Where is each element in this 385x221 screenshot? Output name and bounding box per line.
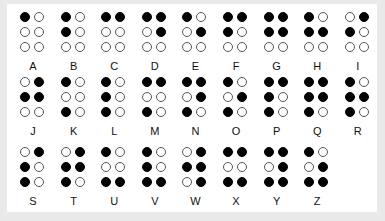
raised-dot-icon <box>156 27 166 37</box>
braille-cell-z: Z <box>304 147 334 207</box>
flat-dot-icon <box>142 42 152 52</box>
flat-dot-icon <box>196 107 206 117</box>
raised-dot-icon <box>156 177 166 187</box>
letter-label: L <box>101 125 127 137</box>
letter-label: C <box>101 60 127 72</box>
braille-cell-o: O <box>223 77 253 137</box>
flat-dot-icon <box>34 27 44 37</box>
flat-dot-icon <box>318 107 328 117</box>
flat-dot-icon <box>20 42 30 52</box>
letter-label: O <box>223 125 249 137</box>
raised-dot-icon <box>20 177 30 187</box>
letter-label: G <box>264 60 290 72</box>
flat-dot-icon <box>115 107 125 117</box>
flat-dot-icon <box>75 177 85 187</box>
braille-cell-w: W <box>182 147 212 207</box>
raised-dot-icon <box>101 77 111 87</box>
raised-dot-icon <box>115 177 125 187</box>
flat-dot-icon <box>182 42 192 52</box>
flat-dot-icon <box>278 42 288 52</box>
raised-dot-icon <box>101 12 111 22</box>
flat-dot-icon <box>115 27 125 37</box>
flat-dot-icon <box>156 147 166 157</box>
raised-dot-icon <box>264 107 274 117</box>
flat-dot-icon <box>115 92 125 102</box>
flat-dot-icon <box>115 162 125 172</box>
raised-dot-icon <box>75 147 85 157</box>
raised-dot-icon <box>278 162 288 172</box>
braille-cell-s: S <box>20 147 50 207</box>
raised-dot-icon <box>182 12 192 22</box>
flat-dot-icon <box>237 42 247 52</box>
raised-dot-icon <box>61 77 71 87</box>
letter-label: Z <box>304 195 330 207</box>
flat-dot-icon <box>20 107 30 117</box>
flat-dot-icon <box>223 162 233 172</box>
flat-dot-icon <box>142 27 152 37</box>
letter-label: K <box>61 125 87 137</box>
raised-dot-icon <box>237 12 247 22</box>
raised-dot-icon <box>156 12 166 22</box>
braille-cell-y: Y <box>264 147 294 207</box>
braille-cell-b: B <box>61 12 91 72</box>
raised-dot-icon <box>61 162 71 172</box>
flat-dot-icon <box>115 147 125 157</box>
flat-dot-icon <box>115 77 125 87</box>
flat-dot-icon <box>101 42 111 52</box>
letter-label: J <box>20 125 46 137</box>
braille-cell-q: Q <box>304 77 334 137</box>
raised-dot-icon <box>196 177 206 187</box>
flat-dot-icon <box>75 92 85 102</box>
raised-dot-icon <box>223 177 233 187</box>
raised-dot-icon <box>264 12 274 22</box>
braille-cell-l: L <box>101 77 131 137</box>
raised-dot-icon <box>196 77 206 87</box>
raised-dot-icon <box>115 12 125 22</box>
braille-cell-e: E <box>182 12 212 72</box>
flat-dot-icon <box>34 107 44 117</box>
raised-dot-icon <box>156 77 166 87</box>
raised-dot-icon <box>182 162 192 172</box>
flat-dot-icon <box>182 92 192 102</box>
flat-dot-icon <box>278 107 288 117</box>
letter-label: R <box>345 125 371 137</box>
flat-dot-icon <box>142 92 152 102</box>
flat-dot-icon <box>237 162 247 172</box>
flat-dot-icon <box>156 92 166 102</box>
letter-label: D <box>142 60 168 72</box>
flat-dot-icon <box>223 42 233 52</box>
raised-dot-icon <box>20 92 30 102</box>
braille-cell-k: K <box>61 77 91 137</box>
letter-label: V <box>142 195 168 207</box>
braille-cell-v: V <box>142 147 172 207</box>
flat-dot-icon <box>61 42 71 52</box>
raised-dot-icon <box>142 77 152 87</box>
flat-dot-icon <box>345 12 355 22</box>
raised-dot-icon <box>359 12 369 22</box>
raised-dot-icon <box>264 177 274 187</box>
braille-cell-j: J <box>20 77 50 137</box>
flat-dot-icon <box>359 77 369 87</box>
raised-dot-icon <box>75 162 85 172</box>
raised-dot-icon <box>20 162 30 172</box>
raised-dot-icon <box>223 12 233 22</box>
raised-dot-icon <box>318 77 328 87</box>
raised-dot-icon <box>304 27 314 37</box>
raised-dot-icon <box>318 162 328 172</box>
raised-dot-icon <box>142 107 152 117</box>
raised-dot-icon <box>318 92 328 102</box>
raised-dot-icon <box>142 162 152 172</box>
letter-label: Y <box>264 195 290 207</box>
raised-dot-icon <box>101 107 111 117</box>
braille-cell-d: D <box>142 12 172 72</box>
braille-cell-p: P <box>264 77 294 137</box>
raised-dot-icon <box>237 177 247 187</box>
flat-dot-icon <box>182 27 192 37</box>
raised-dot-icon <box>101 147 111 157</box>
raised-dot-icon <box>278 77 288 87</box>
raised-dot-icon <box>61 27 71 37</box>
raised-dot-icon <box>264 92 274 102</box>
flat-dot-icon <box>359 42 369 52</box>
raised-dot-icon <box>142 147 152 157</box>
flat-dot-icon <box>345 42 355 52</box>
